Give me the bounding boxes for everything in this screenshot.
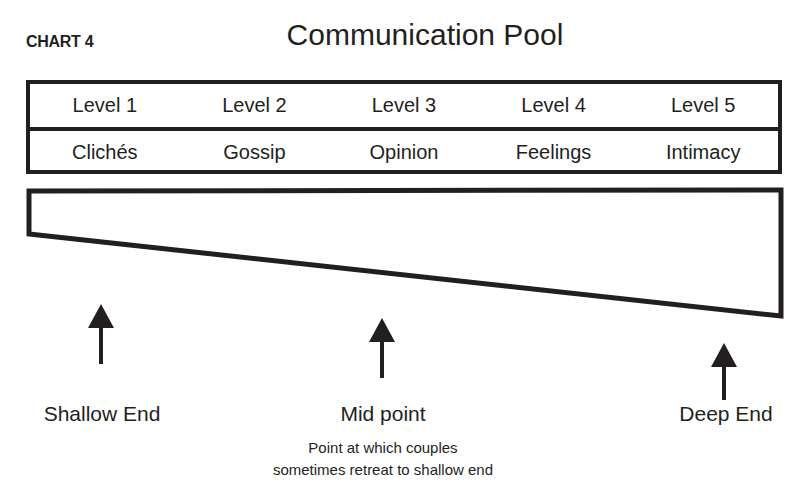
mid-point-note-line-1: Point at which couples	[210, 437, 556, 459]
arrow-up-icon	[369, 318, 395, 378]
deep-end-label: Deep End	[664, 402, 788, 426]
shallow-end-label: Shallow End	[20, 402, 184, 426]
mid-point-note-line-2: sometimes retreat to shallow end	[210, 459, 556, 481]
arrow-up-icon	[88, 304, 114, 364]
pool-shape	[0, 0, 800, 502]
mid-point-note: Point at which couples sometimes retreat…	[210, 437, 556, 481]
arrow-up-icon	[711, 343, 737, 400]
mid-point-label: Mid point	[300, 402, 466, 426]
